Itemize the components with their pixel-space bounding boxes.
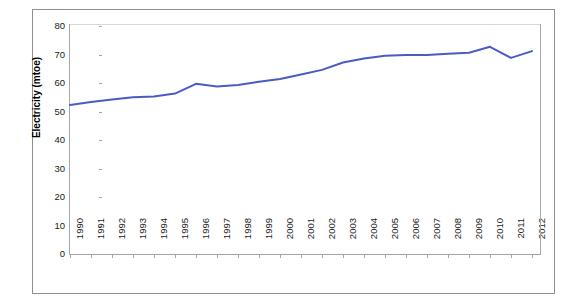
line-series-layer: [0, 0, 567, 306]
chart-screenshot: Electricity (mtoe) 01020304050607080 199…: [0, 0, 567, 306]
electricity-line: [70, 47, 532, 105]
